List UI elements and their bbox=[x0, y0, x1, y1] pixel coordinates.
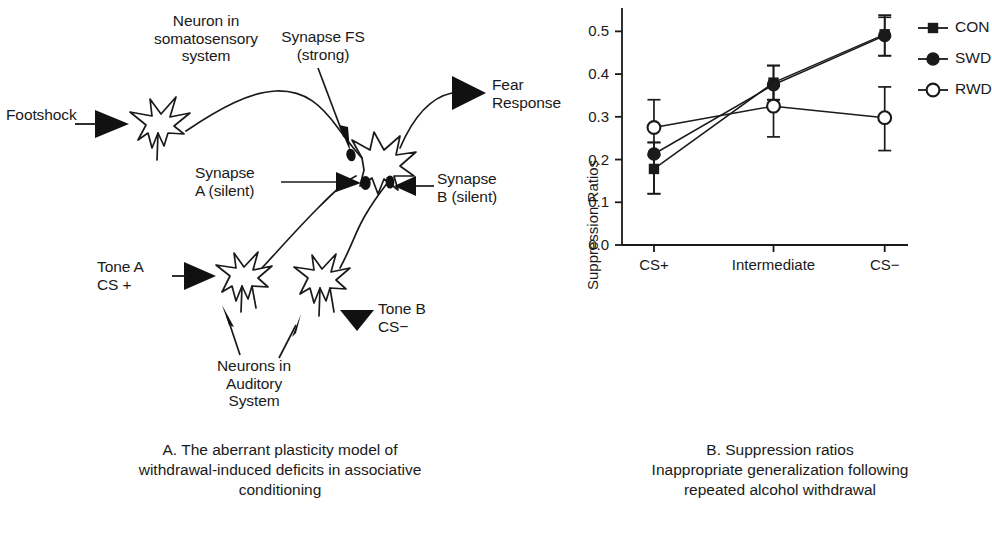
label-fear-response: Fear Response bbox=[492, 76, 561, 111]
panel-b-caption: B. Suppression ratios Inappropriate gene… bbox=[570, 440, 990, 500]
label-synapse-a: Synapse A (silent) bbox=[195, 164, 255, 199]
somatosensory-neuron-soma bbox=[130, 97, 190, 148]
data-point-marker bbox=[768, 79, 780, 91]
label-synapse-fs: Synapse FS (strong) bbox=[268, 28, 378, 63]
synapse-a-pointer-arrowhead bbox=[336, 172, 361, 192]
panel-a-diagram: Neuron in somatosensory system Footshock… bbox=[0, 0, 560, 535]
auditory-pointer-line-2 bbox=[279, 325, 296, 358]
data-point-marker bbox=[879, 30, 891, 42]
synapse-b-bouton bbox=[386, 175, 395, 188]
data-point-marker bbox=[648, 148, 660, 160]
legend-label-con: CON bbox=[955, 18, 989, 36]
auditory-pointer-arrowhead-1 bbox=[222, 305, 234, 327]
suppression-ratios-chart bbox=[560, 0, 990, 440]
legend-item-swd bbox=[918, 53, 948, 65]
series-rwd bbox=[647, 86, 891, 155]
label-synapse-b: Synapse B (silent) bbox=[437, 170, 497, 205]
axon-auditory-b-to-synapse-b bbox=[340, 182, 388, 268]
somatosensory-neuron-dendrite bbox=[157, 133, 158, 160]
legend-marker bbox=[929, 24, 938, 33]
label-tone-a: Tone A CS + bbox=[97, 258, 144, 293]
synapse-a-bouton bbox=[360, 176, 370, 190]
auditory-neuron-b-dendrite-1 bbox=[319, 288, 320, 316]
label-footshock: Footshock bbox=[6, 106, 77, 124]
chart-series-group bbox=[647, 15, 891, 194]
axon-somatosensory-to-central bbox=[186, 91, 362, 158]
y-tick-label: 0.5 bbox=[560, 22, 609, 39]
label-auditory-neurons: Neurons in Auditory System bbox=[199, 357, 309, 410]
auditory-neuron-b-soma bbox=[294, 254, 350, 303]
auditory-neuron-b-dendrite-2 bbox=[330, 288, 334, 312]
legend-marker bbox=[927, 53, 939, 65]
y-tick-label: 0.3 bbox=[560, 108, 609, 125]
label-somatosensory-neuron: Neuron in somatosensory system bbox=[126, 12, 286, 65]
data-point-marker bbox=[767, 100, 780, 113]
panel-b-chart: Suppression Ratios 0.00.10.20.30.40.5CS+… bbox=[560, 0, 990, 535]
y-tick-label: 0.4 bbox=[560, 65, 609, 82]
legend-marker bbox=[927, 84, 940, 97]
legend-label-rwd: RWD bbox=[955, 80, 992, 98]
axon-central-to-fear-response bbox=[400, 93, 452, 148]
y-tick-label: 0.2 bbox=[560, 151, 609, 168]
tone-a-arrowhead bbox=[184, 262, 216, 290]
auditory-neuron-a-dendrite-1 bbox=[241, 286, 242, 312]
footshock-arrowhead bbox=[95, 110, 129, 138]
chart-legend bbox=[918, 24, 948, 97]
tone-b-arrowhead bbox=[340, 310, 374, 331]
legend-label-swd: SWD bbox=[955, 49, 991, 67]
legend-item-rwd bbox=[918, 84, 948, 97]
auditory-pointer-arrowhead-2 bbox=[292, 314, 301, 337]
label-tone-b: Tone B CS− bbox=[378, 300, 426, 335]
y-tick-label: 0.1 bbox=[560, 193, 609, 210]
y-tick-label: 0.0 bbox=[560, 236, 609, 253]
series-markers-rwd bbox=[648, 100, 892, 134]
panel-a-caption: A. The aberrant plasticity model of with… bbox=[20, 440, 540, 500]
auditory-neuron-a-soma bbox=[216, 252, 272, 301]
fear-response-arrowhead bbox=[452, 76, 486, 110]
synapse-b-pointer-arrowhead bbox=[394, 176, 416, 196]
data-point-marker bbox=[878, 111, 891, 124]
auditory-neuron-a-dendrite-2 bbox=[252, 286, 256, 308]
x-tick-label: CS− bbox=[815, 256, 955, 273]
data-point-marker bbox=[649, 164, 658, 173]
legend-item-con bbox=[918, 24, 948, 33]
data-point-marker bbox=[648, 121, 661, 134]
